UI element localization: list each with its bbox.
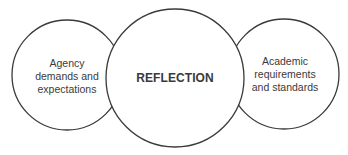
center-circle-label: REFLECTION — [120, 70, 230, 86]
right-circle-label: Academic requirements and standards — [240, 53, 330, 95]
left-circle-label: Agency demands and expectations — [22, 55, 112, 97]
